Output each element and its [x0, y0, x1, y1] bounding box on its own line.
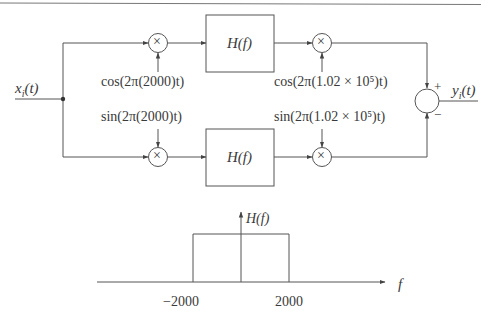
input-label: xi(t)	[15, 81, 39, 99]
plot-ylabel: H(f)	[246, 212, 269, 226]
upper-filter-label: H(f)	[227, 36, 252, 51]
page-rule	[0, 3, 481, 5]
upper-mixer2-symbol: ×	[317, 35, 325, 49]
tick-neg-2000: −2000	[163, 295, 199, 309]
plot-xlabel: f	[398, 277, 402, 292]
summer-plus: +	[434, 80, 441, 93]
output-label: yi(t)	[452, 83, 476, 101]
upper-mixer1-symbol: ×	[153, 35, 161, 49]
lower-filter-label: H(f)	[227, 150, 252, 165]
lower-osc2-label: sin(2π(1.02 × 10⁵)t)	[274, 110, 385, 124]
upper-osc1-label: cos(2π(2000)t)	[101, 75, 184, 89]
tick-pos-2000: 2000	[275, 295, 303, 309]
lower-mixer2-symbol: ×	[317, 149, 325, 163]
lower-osc1-label: sin(2π(2000)t)	[101, 110, 182, 124]
lower-mixer1-symbol: ×	[153, 149, 161, 163]
upper-osc2-label: cos(2π(1.02 × 10⁵)t)	[274, 75, 388, 89]
junction-dot	[61, 97, 65, 101]
summer-minus: −	[434, 108, 441, 121]
